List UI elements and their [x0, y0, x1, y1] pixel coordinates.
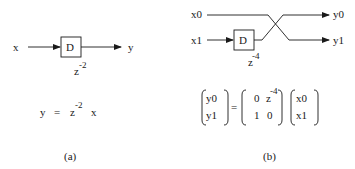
delay-exponent: -2 [79, 60, 87, 70]
output-label-y1: y1 [333, 34, 344, 46]
matrix-eq-sign: = [231, 101, 237, 113]
rhs-x1: x1 [296, 109, 307, 121]
delay-block-b-label: D [239, 34, 247, 46]
input-label-x: x [13, 41, 19, 53]
eq-exponent: -2 [75, 100, 83, 110]
eq-rhs-x: x [91, 106, 97, 118]
rhs-x0: x0 [296, 92, 308, 104]
matrix-equation: y0 y1 = 0 z -4 1 0 x0 x1 [202, 86, 318, 125]
input-label-x1: x1 [191, 34, 202, 46]
lhs-right-paren [224, 90, 228, 125]
m01-exponent: -4 [270, 86, 278, 96]
panel-b: x0 x1 D y0 y1 z -4 y0 y1 = 0 z -4 1 0 [191, 8, 345, 163]
x0-to-y1-wire [207, 15, 329, 40]
equation-a: y = z -2 x [40, 100, 97, 118]
eq-sign: = [54, 106, 60, 118]
x1-to-y0-wire [254, 15, 329, 40]
caption-a: (a) [64, 150, 77, 163]
matrix-right-paren [278, 90, 282, 125]
lhs-y0: y0 [206, 92, 218, 104]
delay-block-label: D [66, 41, 74, 53]
m11: 0 [267, 109, 273, 121]
diagram-canvas: x D y z -2 y = z -2 x (a) x0 x1 D y0 y1 … [0, 0, 355, 169]
m00: 0 [254, 92, 260, 104]
panel-a: x D y z -2 y = z -2 x (a) [13, 37, 134, 163]
input-label-x0: x0 [191, 8, 203, 20]
caption-b: (b) [263, 150, 276, 163]
output-label-y0: y0 [333, 8, 345, 20]
matrix-left-paren [242, 90, 246, 125]
rhs-left-paren [291, 90, 295, 125]
lhs-y1: y1 [206, 109, 217, 121]
eq-lhs: y [40, 106, 46, 118]
rhs-right-paren [314, 90, 318, 125]
m10: 1 [254, 109, 260, 121]
output-label-y: y [128, 41, 134, 53]
delay-b-exponent: -4 [252, 51, 260, 61]
